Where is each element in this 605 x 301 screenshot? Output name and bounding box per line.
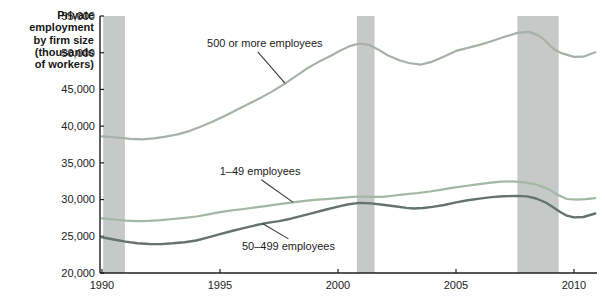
- y-tick-label: 35,000: [61, 157, 95, 169]
- recession-band: [517, 16, 558, 273]
- employment-by-firm-size-figure: 20,00025,00030,00035,00040,00045,00050,0…: [0, 0, 605, 301]
- y-tick-label: 45,000: [61, 83, 95, 95]
- annotation-leader-line: [258, 52, 285, 83]
- recession-band: [357, 16, 375, 273]
- series-label-500-or-more-employees: 500 or more employees: [207, 37, 323, 49]
- x-tick-label: 2005: [444, 279, 468, 291]
- annotation-leader-line: [261, 180, 293, 203]
- y-tick-label: 20,000: [61, 267, 95, 279]
- y-tick-label: 30,000: [61, 193, 95, 205]
- recession-band: [103, 16, 125, 273]
- series-label-50-499-employees: 50–499 employees: [242, 240, 335, 252]
- y-tick-label: 25,000: [61, 230, 95, 242]
- y-tick-label: 40,000: [61, 120, 95, 132]
- x-tick-label: 2000: [326, 279, 350, 291]
- series-label-1-49-employees: 1–49 employees: [220, 165, 301, 177]
- annotation-leader-line: [262, 224, 288, 239]
- y-axis-label: Private employment by firm size (thousan…: [4, 9, 94, 71]
- x-tick-label: 2010: [562, 279, 586, 291]
- x-tick-label: 1995: [208, 279, 232, 291]
- x-tick-label: 1990: [90, 279, 114, 291]
